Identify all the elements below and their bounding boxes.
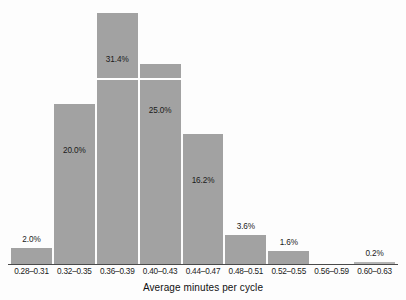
histogram-bar[interactable]: 16.2% xyxy=(183,134,224,264)
x-axis-tick-label: 0.36–0.39 xyxy=(96,267,139,276)
bar-value-label: 16.2% xyxy=(183,176,224,185)
histogram-bar-slot: 16.2% xyxy=(182,4,225,264)
x-axis-tick-label: 0.40–0.43 xyxy=(139,267,182,276)
histogram-bar[interactable]: 20.0% xyxy=(54,104,95,264)
x-axis-tick-label: 0.44–0.47 xyxy=(182,267,225,276)
histogram-bar[interactable] xyxy=(11,248,52,264)
histogram-chart: 2.0%20.0%31.4%25.0%16.2%3.6%1.6%0.2% 0.2… xyxy=(0,0,406,300)
x-axis-tick-label: 0.32–0.35 xyxy=(53,267,96,276)
histogram-bar-slot: 3.6% xyxy=(224,4,267,264)
x-axis-tick-label: 0.60–0.63 xyxy=(353,267,396,276)
bar-value-label: 31.4% xyxy=(97,55,138,64)
histogram-bar-slot xyxy=(310,4,353,264)
render-artifact-line xyxy=(96,78,182,80)
bar-value-label: 25.0% xyxy=(140,106,181,115)
histogram-bar-slot: 25.0% xyxy=(139,4,182,264)
histogram-bar-slot: 0.2% xyxy=(353,4,396,264)
bar-value-label: 3.6% xyxy=(224,222,267,231)
bar-value-label: 0.2% xyxy=(353,249,396,258)
histogram-bar[interactable] xyxy=(225,235,266,264)
bar-value-label: 2.0% xyxy=(10,235,53,244)
x-axis-tick-label: 0.52–0.55 xyxy=(267,267,310,276)
plot-area: 2.0%20.0%31.4%25.0%16.2%3.6%1.6%0.2% xyxy=(10,4,396,264)
histogram-bar-slot: 1.6% xyxy=(267,4,310,264)
histogram-bar[interactable] xyxy=(268,251,309,264)
x-axis-tick-label: 0.56–0.59 xyxy=(310,267,353,276)
histogram-bar-slot: 31.4% xyxy=(96,4,139,264)
x-axis-title: Average minutes per cycle xyxy=(0,282,406,293)
x-axis-tick-label: 0.48–0.51 xyxy=(224,267,267,276)
x-axis-tick-label: 0.28–0.31 xyxy=(10,267,53,276)
histogram-bar[interactable]: 31.4% xyxy=(97,13,138,264)
x-axis-tick-labels: 0.28–0.310.32–0.350.36–0.390.40–0.430.44… xyxy=(10,267,396,281)
bar-value-label: 20.0% xyxy=(54,146,95,155)
histogram-bar-slot: 20.0% xyxy=(53,4,96,264)
bar-value-label: 1.6% xyxy=(267,238,310,247)
histogram-bar[interactable]: 25.0% xyxy=(140,64,181,264)
x-axis-line xyxy=(8,264,398,265)
histogram-bar-slot: 2.0% xyxy=(10,4,53,264)
